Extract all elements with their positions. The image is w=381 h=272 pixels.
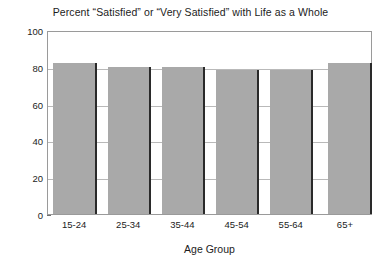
y-axis-tick-label: 100 xyxy=(3,26,43,37)
chart-title: Percent “Satisfied” or “Very Satisfied” … xyxy=(0,6,381,18)
y-axis-tick-mark xyxy=(47,215,51,216)
bar xyxy=(53,63,96,214)
x-axis-tick-label: 55-64 xyxy=(279,219,303,230)
y-axis-tick-label: 80 xyxy=(3,62,43,73)
bar xyxy=(216,70,259,214)
bar-chart-figure: Percent “Satisfied” or “Very Satisfied” … xyxy=(0,0,381,272)
bar xyxy=(108,67,151,214)
x-axis-tick-label: 15-24 xyxy=(62,219,86,230)
bar-series xyxy=(48,32,371,214)
bar xyxy=(270,70,313,214)
plot-area xyxy=(47,31,372,215)
y-axis-tick-label: 60 xyxy=(3,99,43,110)
x-axis-tick-label: 25-34 xyxy=(116,219,140,230)
x-axis-tick-label: 65+ xyxy=(337,219,353,230)
y-axis-tick-label: 0 xyxy=(3,210,43,221)
bar xyxy=(162,67,205,214)
bar xyxy=(328,63,371,214)
x-axis-tick-label: 35-44 xyxy=(170,219,194,230)
x-axis-title: Age Group xyxy=(47,243,372,255)
y-axis-tick-label: 20 xyxy=(3,173,43,184)
x-axis-tick-label: 45-54 xyxy=(224,219,248,230)
y-axis-tick-label: 40 xyxy=(3,136,43,147)
